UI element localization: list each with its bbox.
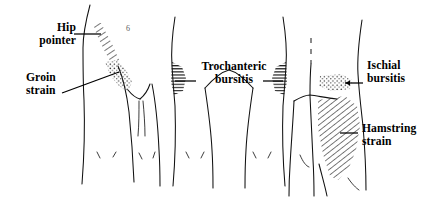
knee-mark-a [97, 152, 100, 158]
label-hamstring-strain: Hamstring strain [362, 123, 446, 148]
panel-middle-anatomy [171, 17, 287, 188]
anatomy-figure: Hip pointer Groin strain Trochanteric bu… [0, 0, 447, 213]
right-figure-medial-outline [310, 64, 311, 95]
left-figure-groin-crease [128, 90, 140, 99]
panel-right-anatomy [289, 20, 366, 196]
label-ischial-bursitis: Ischial bursitis [367, 60, 445, 85]
knee-mark-b [113, 152, 116, 157]
middle-figure-right-outline [283, 17, 287, 186]
left-figure-perineum [140, 84, 150, 99]
left-figure-second-leg-outer [152, 84, 160, 186]
left-figure-inner-thigh-crease [138, 101, 139, 136]
knee-mark-h [268, 152, 271, 158]
label-trochanteric-bursitis: Trochanteric bursitis [178, 61, 290, 86]
figure-number: 6 [126, 24, 130, 33]
right-figure-second-leg-inner [319, 164, 327, 196]
right-figure-crease-tick [300, 155, 309, 167]
middle-figure-inner-right [245, 88, 253, 188]
knee-mark-e [186, 152, 189, 158]
knee-mark-c [139, 153, 142, 159]
knee-mark-g [253, 152, 256, 158]
right-figure-crease-tick-2 [348, 178, 359, 190]
hamstring-strain-region [318, 96, 360, 180]
right-figure-outer-left-leg [289, 101, 294, 196]
middle-figure-left-outline [172, 17, 176, 186]
left-figure-inner-thigh-crease-2 [143, 101, 145, 136]
label-hip-pointer: Hip pointer [4, 22, 76, 47]
right-figure-lateral-outline [358, 20, 366, 190]
knee-mark-f [201, 152, 204, 158]
label-groin-strain: Groin strain [26, 72, 88, 97]
middle-figure-inner-left [205, 88, 213, 188]
knee-mark-d [153, 152, 155, 158]
right-figure-inner-left-leg [310, 96, 314, 196]
hip-pointer-region [93, 23, 120, 66]
